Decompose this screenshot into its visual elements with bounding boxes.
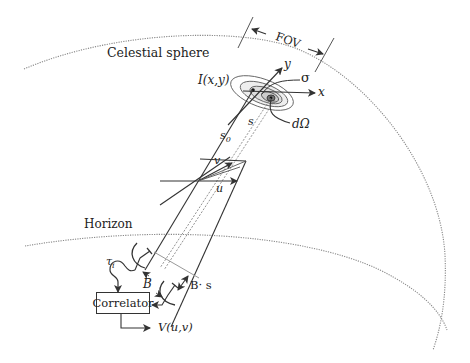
- label-sigma: σ: [301, 71, 310, 84]
- label-celestial-sphere: Celestial sphere: [107, 47, 209, 60]
- telescope-2: [152, 281, 178, 305]
- label-b-dot-s: B· s: [190, 280, 212, 292]
- label-horizon: Horizon: [84, 218, 133, 230]
- label-solid-angle: dΩ: [292, 118, 310, 130]
- label-s0-sub: 0: [226, 135, 231, 144]
- label-u: u: [216, 183, 223, 194]
- label-s: s: [248, 116, 254, 127]
- label-baseline: B: [143, 278, 152, 290]
- label-v: v: [214, 155, 220, 166]
- label-tau-sub: i: [112, 261, 115, 270]
- diagram-graphics: [0, 0, 470, 363]
- label-axis-x: x: [318, 86, 325, 98]
- correlator-box: Correlator: [96, 292, 150, 314]
- celestial-sphere-arc: [24, 35, 445, 350]
- telescope-1: [132, 243, 152, 270]
- label-brightness: I(x,y): [198, 74, 229, 86]
- label-axis-y: y: [284, 58, 291, 70]
- horizon-arc: [25, 234, 447, 330]
- interferometer-diagram: Celestial sphere FOV I(x,y) y x σ dΩ s s…: [0, 0, 470, 363]
- label-s0: s0: [220, 130, 231, 144]
- label-tau: τi: [106, 256, 115, 270]
- label-visibility: V(u,v): [158, 322, 193, 334]
- source-contours: [226, 69, 298, 118]
